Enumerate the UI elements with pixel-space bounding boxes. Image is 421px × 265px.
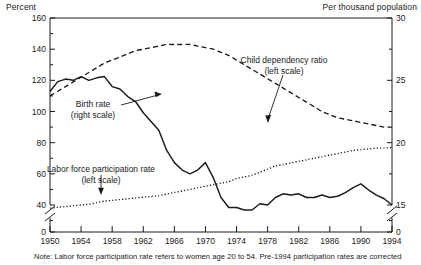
annotation-cdr-line1: Child dependency ratio: [229, 55, 339, 66]
annotation-child-dependency-ratio: Child dependency ratio (left scale): [229, 55, 339, 76]
x-tick-label-1990: 1990: [345, 236, 377, 246]
x-tick-label-1994: 1994: [376, 236, 408, 246]
x-tick-label-1982: 1982: [283, 236, 315, 246]
x-tick-label-1986: 1986: [314, 236, 346, 246]
plot-canvas: [0, 0, 421, 265]
annotation-birth-line2: (right scale): [62, 110, 124, 121]
x-tick-label-1970: 1970: [189, 236, 221, 246]
annotation-lfp-line1: Labor force participation rate: [36, 164, 166, 175]
figure-dual-axis-line-chart: Percent Per thousand population: [0, 0, 421, 265]
left-tick-label-160: 160: [18, 13, 46, 23]
annotation-lfp-line2: (left scale): [36, 175, 166, 186]
x-tick-label-1974: 1974: [221, 236, 253, 246]
right-tick-label-15: 15: [396, 200, 420, 210]
left-tick-label-120: 120: [18, 75, 46, 85]
left-tick-label-100: 100: [18, 107, 46, 117]
x-tick-label-1978: 1978: [252, 236, 284, 246]
left-tick-label-140: 140: [18, 44, 46, 54]
left-tick-label-80: 80: [18, 138, 46, 148]
axes-frame: [50, 18, 392, 232]
x-tick-label-1966: 1966: [158, 236, 190, 246]
x-tick-label-1958: 1958: [96, 236, 128, 246]
annotation-birth-line1: Birth rate: [62, 99, 124, 110]
right-tick-label-30: 30: [396, 13, 420, 23]
left-axis-ticks: [50, 18, 55, 232]
annotation-labor-force-participation-rate: Labor force participation rate (left sca…: [36, 164, 166, 185]
annotation-birth-rate: Birth rate (right scale): [62, 99, 124, 120]
annotation-cdr-line2: (left scale): [229, 66, 339, 77]
x-tick-label-1954: 1954: [65, 236, 97, 246]
left-tick-label-60: 60: [18, 169, 46, 179]
left-tick-label-40: 40: [18, 200, 46, 210]
right-tick-label-25: 25: [396, 75, 420, 85]
x-axis-ticks: [50, 226, 392, 232]
x-tick-label-1962: 1962: [127, 236, 159, 246]
chart-footnote: Note: Labor force participation rate ref…: [34, 252, 402, 261]
right-axis-ticks: [387, 18, 392, 232]
x-tick-label-1950: 1950: [34, 236, 66, 246]
right-tick-label-20: 20: [396, 138, 420, 148]
